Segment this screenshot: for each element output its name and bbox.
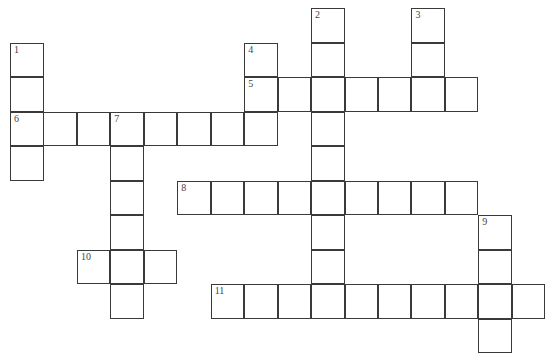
crossword-cell[interactable] — [411, 77, 445, 112]
crossword-cell[interactable] — [278, 284, 312, 319]
clue-number: 1 — [14, 45, 19, 55]
clue-number: 6 — [14, 114, 19, 124]
crossword-cell[interactable] — [244, 181, 278, 216]
crossword-cell[interactable]: 2 — [311, 8, 345, 43]
crossword-cell[interactable]: 1 — [10, 43, 44, 78]
crossword-cell[interactable] — [278, 181, 312, 216]
crossword-cell[interactable]: 6 — [10, 112, 44, 147]
crossword-cell[interactable] — [244, 112, 278, 147]
clue-number: 11 — [215, 286, 225, 296]
crossword-cell[interactable] — [445, 284, 479, 319]
crossword-cell[interactable] — [43, 112, 77, 147]
crossword-cell[interactable]: 10 — [77, 250, 111, 285]
crossword-cell[interactable] — [311, 77, 345, 112]
crossword-cell[interactable]: 5 — [244, 77, 278, 112]
crossword-cell[interactable] — [378, 77, 412, 112]
crossword-cell[interactable] — [311, 112, 345, 147]
crossword-cell[interactable] — [411, 284, 445, 319]
crossword-cell[interactable] — [110, 215, 144, 250]
crossword-cell[interactable] — [244, 284, 278, 319]
clue-number: 7 — [114, 114, 119, 124]
crossword-cell[interactable] — [211, 112, 245, 147]
crossword-cell[interactable] — [311, 284, 345, 319]
clue-number: 8 — [181, 183, 186, 193]
crossword-cell[interactable] — [445, 181, 479, 216]
clue-number: 4 — [248, 45, 253, 55]
crossword-cell[interactable] — [110, 146, 144, 181]
clue-number: 2 — [315, 10, 320, 20]
clue-number: 10 — [81, 252, 91, 262]
crossword-cell[interactable] — [110, 250, 144, 285]
crossword-cell[interactable] — [478, 250, 512, 285]
crossword-cell[interactable] — [311, 43, 345, 78]
crossword-cell[interactable] — [411, 181, 445, 216]
crossword-cell[interactable] — [512, 284, 546, 319]
crossword-cell[interactable] — [110, 181, 144, 216]
crossword-cell[interactable]: 4 — [244, 43, 278, 78]
crossword-cell[interactable] — [345, 77, 379, 112]
crossword-cell[interactable] — [311, 146, 345, 181]
crossword-cell[interactable] — [110, 284, 144, 319]
crossword-cell[interactable] — [345, 181, 379, 216]
crossword-cell[interactable] — [411, 43, 445, 78]
crossword-cell[interactable] — [144, 112, 178, 147]
clue-number: 5 — [248, 79, 253, 89]
crossword-cell[interactable]: 9 — [478, 215, 512, 250]
crossword-cell[interactable]: 7 — [110, 112, 144, 147]
crossword-cell[interactable] — [345, 284, 379, 319]
crossword-cell[interactable] — [478, 284, 512, 319]
crossword-cell[interactable]: 3 — [411, 8, 445, 43]
crossword-cell[interactable] — [211, 181, 245, 216]
crossword-cell[interactable] — [311, 181, 345, 216]
crossword-cell[interactable] — [10, 77, 44, 112]
clue-number: 9 — [482, 217, 487, 227]
crossword-cell[interactable] — [278, 77, 312, 112]
crossword-cell[interactable] — [478, 319, 512, 353]
crossword-cell[interactable] — [144, 250, 178, 285]
clue-number: 3 — [415, 10, 420, 20]
crossword-cell[interactable]: 11 — [211, 284, 245, 319]
crossword-cell[interactable]: 8 — [177, 181, 211, 216]
crossword-cell[interactable] — [445, 77, 479, 112]
crossword-cell[interactable] — [378, 284, 412, 319]
crossword-cell[interactable] — [177, 112, 211, 147]
crossword-cell[interactable] — [311, 215, 345, 250]
crossword-cell[interactable] — [378, 181, 412, 216]
crossword-cell[interactable] — [311, 250, 345, 285]
crossword-cell[interactable] — [77, 112, 111, 147]
crossword-cell[interactable] — [10, 146, 44, 181]
